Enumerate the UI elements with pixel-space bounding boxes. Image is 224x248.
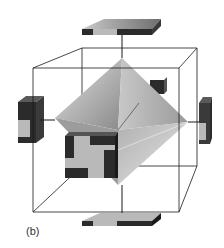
octahedron-cube-diagram bbox=[0, 0, 224, 248]
block-right bbox=[188, 97, 212, 144]
block-left bbox=[18, 96, 55, 143]
block-bottom bbox=[82, 185, 161, 226]
panel-label: (b) bbox=[26, 225, 39, 237]
block-front bbox=[65, 132, 118, 178]
block-top bbox=[82, 19, 161, 58]
